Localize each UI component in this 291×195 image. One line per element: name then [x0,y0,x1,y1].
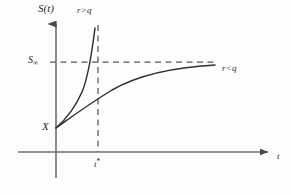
curve-label-r-less-than-q: r<q [222,64,237,73]
curve-label-lhs: r [222,63,226,73]
y-tick-label-s-infinity: S∞ [28,55,38,67]
plot-canvas [0,0,291,195]
start-point-label: X [42,121,49,132]
x-axis-label: t [277,152,280,161]
y-tick-label-subscript: ∞ [33,59,38,67]
y-axis-label-variable: t [47,3,50,14]
curve-label-lhs: r [77,5,81,15]
x-tick-label-star: * [97,157,101,166]
y-axis-label-base: S( [38,2,47,14]
curve-r-greater-than-q [56,28,95,128]
x-tick-label-t-star: t* [94,158,100,169]
curve-label-rhs: q [232,63,237,73]
y-axis-label: S(t) [38,3,54,14]
figure-container: S(t) t S∞ X t* r>q r<q [0,0,291,195]
curve-label-rhs: q [87,5,92,15]
curve-label-r-greater-than-q: r>q [77,6,92,15]
